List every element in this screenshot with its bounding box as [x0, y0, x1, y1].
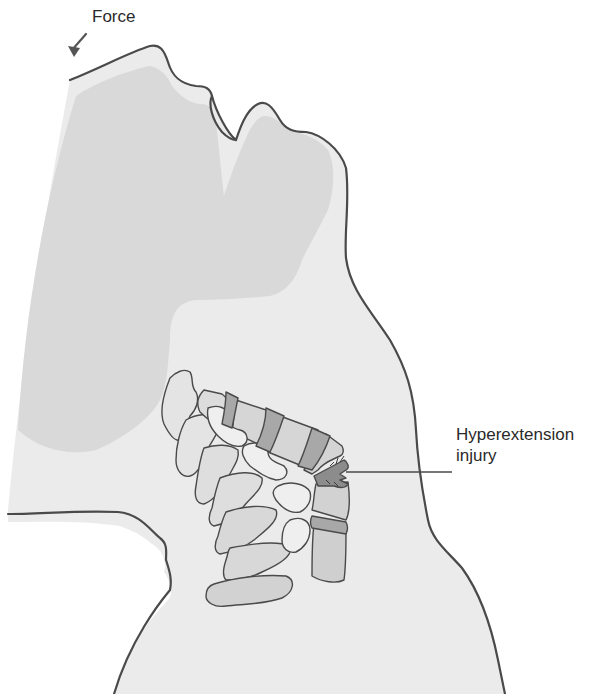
force-arrow [68, 34, 86, 57]
force-label: Force [92, 6, 135, 27]
force-arrow-head [68, 46, 80, 57]
hyperextension-injury-label: Hyperextension injury [456, 424, 612, 466]
injury-label-line2: injury [456, 445, 612, 466]
injury-label-line1: Hyperextension [456, 424, 612, 445]
hyperextension-diagram [0, 0, 612, 694]
